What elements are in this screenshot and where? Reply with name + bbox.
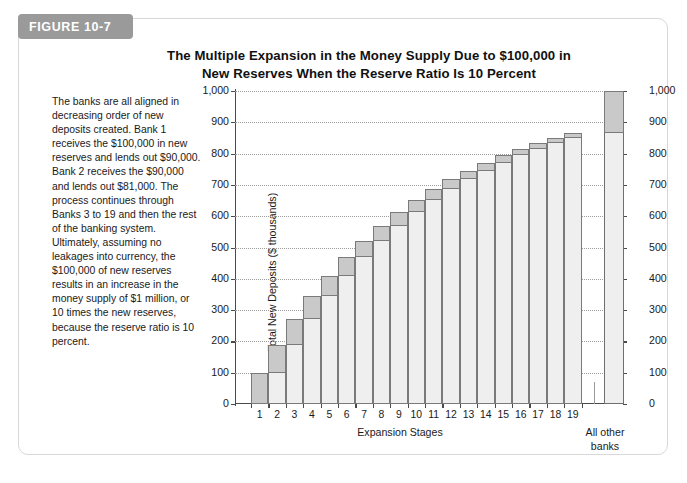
- all-other-banks-line-1: All other: [586, 426, 625, 438]
- y-tick-mark-left: [231, 279, 235, 280]
- bar-increment-segment: [477, 163, 494, 171]
- y-tick-label-left: 600: [211, 209, 229, 221]
- y-tick-mark-left: [231, 154, 235, 155]
- y-tick-mark-left: [231, 310, 235, 311]
- figure-card: The Multiple Expansion in the Money Supp…: [18, 18, 668, 455]
- y-tick-label-left: 400: [211, 272, 229, 284]
- bar-increment-segment: [564, 133, 581, 138]
- y-tick-label-right: 200: [649, 334, 667, 346]
- bar-increment-segment: [251, 373, 268, 404]
- y-tick-label-left: 700: [211, 178, 229, 190]
- bar-stage-16: [512, 149, 529, 404]
- x-tick-mark: [425, 404, 426, 408]
- figure-number-label: FIGURE 10-7: [29, 20, 111, 34]
- y-tick-label-left: 900: [211, 115, 229, 127]
- x-tick-mark: [495, 404, 496, 408]
- x-tick-mark: [582, 404, 583, 408]
- y-tick-label-right: 500: [649, 241, 667, 253]
- bar-stage-4: [303, 296, 320, 404]
- y-tick-label-right: 1,000: [649, 84, 676, 96]
- bar-increment-segment: [338, 257, 355, 275]
- bar-increment-segment: [460, 171, 477, 180]
- x-tick-mark: [477, 404, 478, 408]
- bar-stage-17: [529, 143, 546, 404]
- bar-stage-10: [408, 200, 425, 404]
- x-tick-mark: [286, 404, 287, 408]
- y-tick-label-left: 0: [223, 397, 229, 409]
- bar-stage-12: [442, 179, 459, 404]
- bar-stage-14: [477, 163, 494, 404]
- bar-stage-18: [547, 138, 564, 404]
- bar-increment-segment: [529, 143, 546, 149]
- y-tick-label-right: 300: [649, 303, 667, 315]
- bar-increment-segment: [286, 319, 303, 344]
- y-tick-label-right: 100: [649, 366, 667, 378]
- chart-plot-area: Total New Deposits ($ thousands) 0010010…: [235, 91, 623, 404]
- y-tick-mark-left: [231, 248, 235, 249]
- all-other-banks-separator: [594, 382, 595, 404]
- y-tick-mark-left: [231, 122, 235, 123]
- x-tick-mark: [303, 404, 304, 408]
- y-tick-label-left: 200: [211, 334, 229, 346]
- x-tick-mark: [442, 404, 443, 408]
- bar-increment-segment: [303, 296, 320, 319]
- y-tick-label-right: 400: [649, 272, 667, 284]
- gridline: [235, 122, 623, 123]
- x-tick-mark: [390, 404, 391, 408]
- x-tick-mark: [460, 404, 461, 408]
- bar-increment-segment: [495, 155, 512, 162]
- y-tick-mark-left: [231, 216, 235, 217]
- bar-increment-segment: [390, 212, 407, 225]
- bar-increment-segment: [408, 200, 425, 212]
- bar-stage-1: [251, 373, 268, 404]
- x-tick-mark: [338, 404, 339, 408]
- x-tick-mark: [251, 404, 252, 408]
- all-other-banks-label: All other banks: [565, 426, 645, 453]
- bar-increment-segment: [321, 276, 338, 297]
- bar-stage-6: [338, 257, 355, 404]
- bar-increment-segment: [268, 345, 285, 373]
- bar-stage-13: [460, 171, 477, 404]
- gridline: [235, 91, 623, 92]
- y-tick-mark-left: [231, 404, 235, 405]
- y-tick-mark-left: [231, 341, 235, 342]
- x-axis-title: Expansion Stages: [235, 426, 565, 438]
- bar-increment-segment: [442, 179, 459, 189]
- bar-all-other-banks: [604, 91, 624, 404]
- figure-number-tab: FIGURE 10-7: [18, 14, 133, 39]
- bar-increment-segment: [355, 241, 372, 258]
- y-tick-label-right: 0: [649, 397, 655, 409]
- bar-stage-8: [373, 226, 390, 404]
- bar-stage-2: [268, 345, 285, 404]
- bar-stage-15: [495, 155, 512, 404]
- x-tick-mark: [355, 404, 356, 408]
- x-tick-mark: [512, 404, 513, 408]
- bar-stage-7: [355, 241, 372, 404]
- y-tick-label-left: 1,000: [202, 84, 229, 96]
- bar-stage-11: [425, 189, 442, 404]
- bar-increment-segment: [547, 138, 564, 143]
- y-tick-label-right: 800: [649, 147, 667, 159]
- bar-increment-segment: [604, 91, 624, 133]
- y-tick-label-right: 900: [649, 115, 667, 127]
- title-line-2: New Reserves When the Reserve Ratio Is 1…: [149, 65, 589, 83]
- x-tick-mark: [564, 404, 565, 408]
- bar-stage-5: [321, 276, 338, 404]
- x-tick-mark: [268, 404, 269, 408]
- x-tick-mark: [408, 404, 409, 408]
- title-line-1: The Multiple Expansion in the Money Supp…: [149, 47, 589, 65]
- y-tick-label-right: 600: [649, 209, 667, 221]
- y-tick-label-left: 800: [211, 147, 229, 159]
- x-tick-mark: [321, 404, 322, 408]
- bar-stage-19: [564, 133, 581, 404]
- figure-caption: The banks are all aligned in decreasing …: [52, 95, 202, 349]
- x-tick-mark: [373, 404, 374, 408]
- bar-stage-9: [390, 212, 407, 404]
- bar-increment-segment: [373, 226, 390, 241]
- all-other-banks-line-2: banks: [591, 440, 619, 452]
- y-tick-label-right: 700: [649, 178, 667, 190]
- bar-increment-segment: [425, 189, 442, 200]
- y-tick-mark-left: [231, 185, 235, 186]
- x-tick-label-19: 19: [560, 409, 585, 420]
- plot-wrapper: The Multiple Expansion in the Money Supp…: [19, 19, 669, 456]
